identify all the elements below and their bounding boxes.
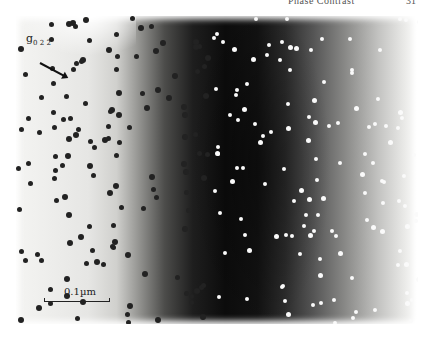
precipitate-particle <box>65 153 71 159</box>
precipitate-particle <box>181 104 187 110</box>
precipitate-particle <box>155 87 161 93</box>
precipitate-particle <box>216 152 220 156</box>
precipitate-particle <box>37 130 42 135</box>
precipitate-particle <box>239 217 243 221</box>
precipitate-particle <box>36 305 42 311</box>
precipitate-particle <box>304 213 308 217</box>
precipitate-particle <box>134 54 139 59</box>
precipitate-particle <box>16 166 21 171</box>
precipitate-particle <box>35 252 40 257</box>
precipitate-particle <box>307 115 311 119</box>
precipitate-particle <box>114 153 119 158</box>
precipitate-particle <box>217 295 221 299</box>
precipitate-particle <box>311 303 315 307</box>
precipitate-particle <box>114 32 119 37</box>
precipitate-particle <box>414 219 418 223</box>
precipitate-particle <box>106 47 112 53</box>
precipitate-particle <box>388 140 393 145</box>
g-vector-indices: 0 2 2̅ <box>33 39 51 47</box>
precipitate-particle <box>396 126 400 130</box>
precipitate-particle <box>62 194 68 200</box>
precipitate-particle <box>294 46 299 51</box>
precipitate-particle <box>117 140 122 145</box>
precipitate-particle <box>182 134 188 140</box>
precipitate-particle <box>322 80 326 84</box>
precipitate-particle <box>247 248 252 253</box>
precipitate-particle <box>306 138 311 143</box>
precipitate-particle <box>376 97 380 101</box>
precipitate-particle <box>83 17 89 23</box>
precipitate-particle <box>236 118 240 122</box>
precipitate-particle <box>54 198 59 203</box>
precipitate-particle <box>182 226 188 232</box>
precipitate-particle <box>378 48 382 52</box>
precipitate-particle <box>87 224 92 229</box>
precipitate-particle <box>336 121 340 125</box>
precipitate-particle <box>26 116 31 121</box>
precipitate-particle <box>200 314 206 320</box>
precipitate-particle <box>299 188 304 193</box>
precipitate-particle <box>405 301 410 306</box>
precipitate-particle <box>51 110 56 115</box>
precipitate-particle <box>338 251 343 256</box>
precipitate-particle <box>130 16 135 21</box>
precipitate-particle <box>285 17 289 21</box>
precipitate-particle <box>230 179 235 184</box>
precipitate-particle <box>218 211 222 215</box>
precipitate-particle <box>28 181 33 186</box>
precipitate-particle <box>23 72 28 77</box>
precipitate-particle <box>66 21 72 27</box>
precipitate-particle <box>365 218 369 222</box>
precipitate-particle <box>381 201 385 205</box>
precipitate-particle <box>203 93 209 99</box>
precipitate-particle <box>384 124 388 128</box>
precipitate-particle <box>125 252 131 258</box>
precipitate-particle <box>108 109 113 114</box>
precipitate-particle <box>205 152 210 157</box>
precipitate-particle <box>302 224 306 228</box>
precipitate-particle <box>267 43 271 47</box>
precipitate-particle <box>184 291 189 296</box>
precipitate-particle <box>48 301 53 306</box>
precipitate-particle <box>416 277 418 282</box>
precipitate-particle <box>309 48 313 52</box>
precipitate-particle <box>235 166 239 170</box>
precipitate-particle <box>90 248 95 253</box>
precipitate-particle <box>18 317 24 323</box>
precipitate-particle <box>201 283 206 288</box>
precipitate-particle <box>405 291 409 295</box>
precipitate-particle <box>127 303 133 309</box>
precipitate-particle <box>76 127 81 132</box>
precipitate-particle <box>354 310 358 314</box>
precipitate-particle <box>327 124 331 128</box>
precipitate-particle <box>290 234 294 238</box>
precipitate-particle <box>23 258 28 263</box>
precipitate-particle <box>141 206 146 211</box>
precipitate-particle <box>330 229 334 233</box>
precipitate-particle <box>39 258 44 263</box>
precipitate-particle <box>73 24 78 29</box>
precipitate-particle <box>312 98 317 103</box>
precipitate-particle <box>84 261 89 266</box>
precipitate-particle <box>153 48 159 54</box>
precipitate-particle <box>172 73 178 79</box>
precipitate-particle <box>64 94 69 99</box>
precipitate-particle <box>60 163 65 168</box>
precipitate-particle <box>405 224 410 229</box>
precipitate-particle <box>235 88 239 92</box>
precipitate-particle <box>94 259 100 265</box>
precipitate-particle <box>88 139 93 144</box>
precipitate-particle <box>373 308 377 312</box>
precipitate-particle <box>350 276 354 280</box>
precipitate-particle <box>216 145 220 149</box>
precipitate-particle <box>195 69 200 74</box>
precipitate-particle <box>382 180 386 184</box>
precipitate-particle <box>360 172 365 177</box>
precipitate-particle <box>140 91 145 96</box>
precipitate-particle <box>241 166 245 170</box>
precipitate-particle <box>66 212 72 218</box>
precipitate-particle <box>53 168 58 173</box>
precipitate-particle <box>87 163 93 169</box>
precipitate-particle <box>61 117 66 122</box>
precipitate-particle <box>312 229 316 233</box>
